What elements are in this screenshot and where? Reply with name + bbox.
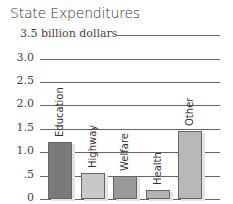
gridline (40, 129, 220, 130)
bar-label: Welfare (119, 133, 130, 171)
bar-other (178, 131, 202, 199)
bar-health (146, 190, 170, 199)
y-tick-label: 0 (0, 191, 34, 204)
gridline (40, 82, 220, 83)
bar-label: Other (184, 98, 195, 126)
bar-label: Health (152, 152, 163, 185)
y-tick-label: 2.5 (0, 74, 34, 87)
gridline (117, 35, 220, 36)
y-tick-label: .5 (0, 168, 34, 181)
chart-title: State Expenditures (10, 5, 140, 21)
y-tick-label: 1.5 (0, 121, 34, 134)
bar-label: Highway (87, 125, 98, 168)
bar-education (48, 142, 72, 199)
y-tick-label: 1.0 (0, 144, 34, 157)
y-tick-label: 2.0 (0, 97, 34, 110)
bar-highway (81, 173, 105, 199)
bar-welfare (113, 176, 137, 199)
y-tick-label: 3.0 (0, 51, 34, 64)
y-tick-label: 3.5 billion dollars (20, 27, 117, 40)
bar-label: Education (54, 87, 65, 137)
gridline (40, 59, 220, 60)
